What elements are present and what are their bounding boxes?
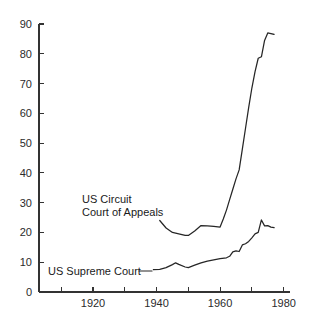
y-tick-label: 80 [20, 48, 32, 60]
y-tick-label: 50 [20, 137, 32, 149]
circuit-court-label-line1: US Circuit [82, 193, 132, 205]
x-tick-label: 1980 [271, 297, 295, 309]
series-line-circuit-court [160, 33, 274, 235]
series-annotations: US Circuit Court of Appeals US Supreme C… [48, 193, 164, 277]
y-tick-label: 40 [20, 167, 32, 179]
y-axis: 0102030405060708090 [20, 18, 44, 298]
chart-container: 0102030405060708090 1920194019601980 US … [0, 0, 311, 329]
circuit-court-label-line2: Court of Appeals [82, 206, 164, 218]
x-axis-ticks: 1920194019601980 [61, 287, 296, 309]
supreme-court-label: US Supreme Court [48, 265, 141, 277]
y-tick-label: 70 [20, 78, 32, 90]
data-series-group [153, 33, 274, 270]
y-tick-label: 0 [26, 286, 32, 298]
y-axis-ticks: 0102030405060708090 [20, 18, 44, 298]
x-tick-label: 1960 [208, 297, 232, 309]
y-tick-label: 60 [20, 107, 32, 119]
x-axis: 1920194019601980 [39, 287, 296, 309]
y-tick-label: 30 [20, 197, 32, 209]
y-tick-label: 90 [20, 18, 32, 30]
y-tick-label: 10 [20, 256, 32, 268]
line-chart: 0102030405060708090 1920194019601980 US … [0, 0, 311, 329]
y-tick-label: 20 [20, 226, 32, 238]
x-tick-label: 1940 [144, 297, 168, 309]
series-line-supreme-court [153, 220, 274, 270]
x-tick-label: 1920 [81, 297, 105, 309]
